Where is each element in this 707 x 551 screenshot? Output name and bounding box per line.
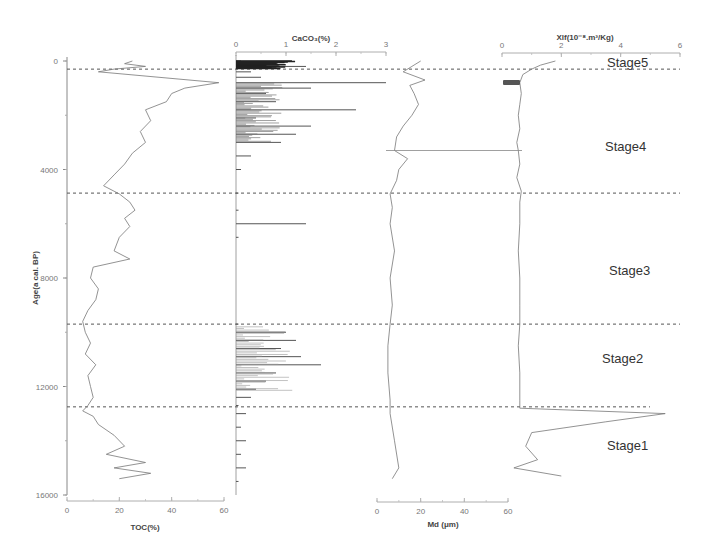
md-series bbox=[388, 61, 425, 479]
toc-tick-label: 60 bbox=[220, 506, 229, 515]
y-tick-label: 4000 bbox=[40, 166, 58, 175]
y-tick-label: 16000 bbox=[36, 491, 59, 500]
y-tick-label: 8000 bbox=[40, 274, 58, 283]
stage-boundaries bbox=[67, 69, 680, 407]
toc-tick-label: 40 bbox=[167, 506, 176, 515]
caco3-tick-label: 3 bbox=[384, 40, 389, 49]
y-axis-title: Age(a cal. BP) bbox=[31, 251, 40, 305]
caco3-tick-label: 1 bbox=[284, 40, 289, 49]
xlf-tick-label: 4 bbox=[618, 41, 623, 50]
xlf-tick-label: 6 bbox=[678, 41, 683, 50]
md-tick-label: 20 bbox=[416, 507, 425, 516]
toc-series bbox=[83, 61, 219, 479]
caco3-tick-label: 2 bbox=[334, 40, 339, 49]
stage4-label: Stage4 bbox=[605, 139, 646, 154]
toc-tick-label: 0 bbox=[65, 506, 70, 515]
stage2-label: Stage2 bbox=[602, 351, 643, 366]
data-series bbox=[83, 61, 666, 481]
toc-tick-label: 20 bbox=[115, 506, 124, 515]
stage1-label: Stage1 bbox=[607, 438, 648, 453]
toc-axis-title: TOC(%) bbox=[130, 523, 160, 532]
xlf-tick-label: 2 bbox=[559, 41, 564, 50]
xlf-axis-title: Xlf(10⁻⁸.m³/Kg) bbox=[556, 33, 613, 42]
axes-group: 0400080001200016000020406001230204060024… bbox=[36, 40, 683, 516]
y-tick-label: 12000 bbox=[36, 383, 59, 392]
md-axis-title: Md (μm) bbox=[427, 520, 458, 529]
stage3-label: Stage3 bbox=[609, 263, 650, 278]
stratigraphic-chart: 0400080001200016000020406001230204060024… bbox=[0, 0, 707, 551]
md-tick-label: 0 bbox=[375, 507, 380, 516]
caco3-tick-label: 0 bbox=[234, 40, 239, 49]
stage5-label: Stage5 bbox=[607, 55, 648, 70]
caco3-axis-title: CaCO₃(%) bbox=[292, 34, 331, 43]
xlf-tick-label: 0 bbox=[500, 41, 505, 50]
md-tick-label: 60 bbox=[504, 507, 513, 516]
y-tick-label: 0 bbox=[54, 57, 59, 66]
md-tick-label: 40 bbox=[460, 507, 469, 516]
